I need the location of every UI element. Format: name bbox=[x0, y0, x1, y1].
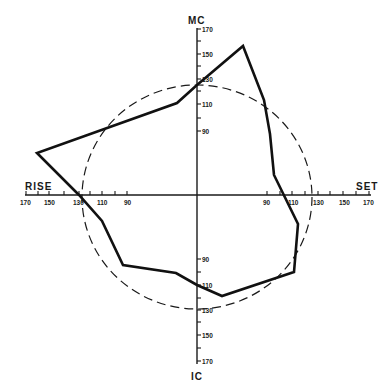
tick-label-left-90: 90 bbox=[124, 199, 132, 206]
axis-label-ic: IC bbox=[191, 371, 203, 382]
tick-label-bottom-170: 170 bbox=[202, 358, 213, 365]
axis-label-set: SET bbox=[356, 181, 378, 192]
data-polygon bbox=[37, 46, 298, 296]
tick-label-left-170: 170 bbox=[20, 199, 31, 206]
tick-label-left-150: 150 bbox=[44, 199, 55, 206]
tick-label-right-90: 90 bbox=[263, 199, 271, 206]
tick-label-bottom-90: 90 bbox=[202, 256, 210, 263]
tick-label-right-130: 130 bbox=[313, 199, 324, 206]
tick-label-bottom-150: 150 bbox=[202, 332, 213, 339]
axis-label-rise: RISE bbox=[25, 181, 52, 192]
tick-label-bottom-130: 130 bbox=[202, 307, 213, 314]
tick-label-top-150: 150 bbox=[202, 51, 213, 58]
tick-label-top-90: 90 bbox=[202, 128, 210, 135]
tick-label-right-150: 150 bbox=[339, 199, 350, 206]
tick-label-right-170: 170 bbox=[363, 199, 374, 206]
polar-chart: 170 150 130 110 90 90 110 130 150 170 17… bbox=[0, 0, 391, 388]
tick-label-left-110: 110 bbox=[97, 199, 108, 206]
axis-label-mc: MC bbox=[188, 15, 206, 26]
tick-label-top-110: 110 bbox=[202, 101, 213, 108]
tick-label-top-170: 170 bbox=[202, 26, 213, 33]
